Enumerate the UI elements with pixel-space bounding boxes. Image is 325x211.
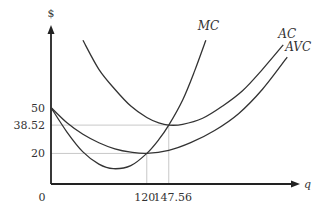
y-axis-label: $ bbox=[48, 7, 55, 20]
cost-curves-chart: $ q 0 5038.5220120147.56 MCACAVC bbox=[0, 0, 325, 211]
ac-curve bbox=[83, 40, 283, 125]
axes: $ q 0 bbox=[39, 7, 312, 204]
mc-label: MC bbox=[197, 19, 219, 33]
x-axis-arrow-icon bbox=[291, 181, 300, 188]
ac-label: AC bbox=[277, 27, 296, 41]
y-axis-arrow-icon bbox=[48, 25, 55, 34]
y-tick-label: 50 bbox=[31, 102, 45, 115]
x-axis-label: q bbox=[304, 178, 311, 191]
origin-label: 0 bbox=[39, 191, 46, 204]
x-tick-label: 120 bbox=[134, 191, 155, 204]
tick-labels: 5038.5220120147.56 bbox=[14, 102, 193, 204]
curve-labels: MCACAVC bbox=[197, 19, 311, 54]
avc-label: AVC bbox=[284, 40, 311, 54]
x-tick-label: 147.56 bbox=[154, 191, 193, 204]
y-tick-label: 38.52 bbox=[14, 119, 46, 132]
y-tick-label: 20 bbox=[31, 147, 45, 160]
